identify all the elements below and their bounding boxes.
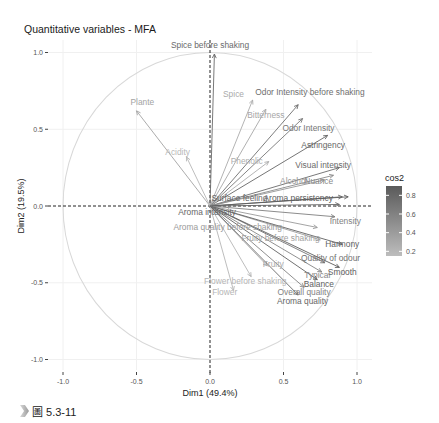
variable-label: Nuance [304, 176, 333, 186]
variable-label: Visual intensity [295, 160, 352, 170]
legend-tick-label: 0.2 [406, 248, 416, 255]
variable-label: Phenolic [231, 156, 263, 166]
figure-caption-text: 圖 5.3-11 [32, 403, 76, 419]
y-tick-label: -0.5 [31, 279, 43, 286]
variable-label: Flower before shaking [204, 276, 287, 286]
x-tick-label: -0.5 [130, 378, 142, 385]
variable-label: Aroma persistency [264, 193, 334, 203]
variable-label: Flower [212, 287, 237, 297]
figure-caption: 圖 5.3-11 [20, 403, 76, 419]
variable-label: Aroma intensity [178, 207, 237, 217]
variable-label: Acidity [165, 147, 190, 157]
variable-label: Plante [131, 97, 155, 107]
y-tick-label: 1.0 [33, 49, 43, 56]
legend-tick-label: 0.4 [406, 229, 416, 236]
variable-label: Aroma quality [277, 296, 329, 306]
chart-title: Quantitative variables - MFA [24, 23, 156, 35]
y-tick-label: -1.0 [31, 356, 43, 363]
legend-colorbar [386, 186, 402, 256]
x-axis-label: Dim1 (49.4%) [182, 388, 237, 398]
x-tick-label: 0.0 [205, 378, 215, 385]
x-tick-label: 1.0 [352, 378, 362, 385]
cos2-legend: cos2 0.80.60.40.2 [385, 173, 416, 256]
variable-label: Smooth [328, 267, 357, 277]
variable-arrow [137, 111, 211, 206]
variable-arrow [186, 157, 210, 206]
variable-arrow [210, 206, 304, 287]
legend-title: cos2 [385, 173, 404, 183]
variable-label: Fruity [263, 259, 285, 269]
variable-label: Spice [223, 89, 244, 99]
x-tick-label: 0.5 [279, 378, 289, 385]
variable-label: Harmony [325, 239, 360, 249]
variable-label: Aroma quality before shaking [173, 222, 282, 232]
mfa-correlation-circle-chart: Quantitative variables - MFA -1.0-0.50.0… [0, 0, 439, 423]
variable-label: Spice before shaking [171, 40, 250, 50]
variable-label: Quality of odour [301, 253, 360, 263]
y-axis-label: Dim2 (19.5%) [16, 178, 26, 233]
variable-labels: Spice before shakingPlanteAciditySpiceOd… [131, 40, 365, 306]
variable-label: Odor Intensity [282, 123, 335, 133]
variable-label: Intensity [330, 216, 362, 226]
variable-label: Astringency [301, 140, 346, 150]
variable-label: Surface feeling [211, 193, 267, 203]
legend-tick-label: 0.8 [406, 192, 416, 199]
variable-label: Fruity before shaking [241, 233, 320, 243]
chevron-marker-icon [20, 405, 29, 417]
variable-label: Odor Intensity before shaking [255, 87, 365, 97]
y-tick-label: 0.0 [33, 203, 43, 210]
x-tick-label: -1.0 [57, 378, 69, 385]
variable-label: Bitterness [247, 110, 284, 120]
legend-tick-label: 0.6 [406, 211, 416, 218]
y-tick-label: 0.5 [33, 126, 43, 133]
variable-arrow [210, 54, 214, 206]
